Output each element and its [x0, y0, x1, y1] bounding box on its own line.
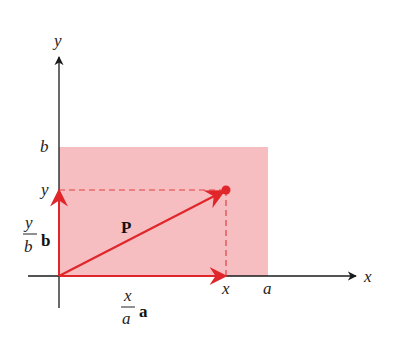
region-rectangle	[59, 147, 268, 276]
x-over-a-a-label: x a a	[121, 286, 148, 328]
x-axis-label: x	[363, 267, 372, 286]
vector-diagram: y x b y x a P y b b x a a	[0, 0, 400, 337]
y-tick-label: y	[39, 180, 49, 199]
frac-x-vector: a	[139, 302, 148, 321]
b-tick-label: b	[40, 137, 49, 156]
x-tick-label: x	[221, 279, 230, 298]
frac-y-numerator: y	[23, 213, 33, 232]
vector-P-label: P	[121, 218, 131, 237]
point-dot	[222, 186, 231, 195]
diagram-canvas: y x b y x a P y b b x a a	[0, 0, 400, 337]
frac-x-denominator: a	[122, 309, 131, 328]
y-axis-label: y	[52, 31, 62, 50]
frac-y-denominator: b	[24, 237, 33, 256]
y-over-b-b-label: y b b	[23, 213, 50, 256]
frac-y-vector: b	[41, 231, 50, 250]
frac-x-numerator: x	[123, 286, 132, 305]
a-tick-label: a	[263, 279, 272, 298]
